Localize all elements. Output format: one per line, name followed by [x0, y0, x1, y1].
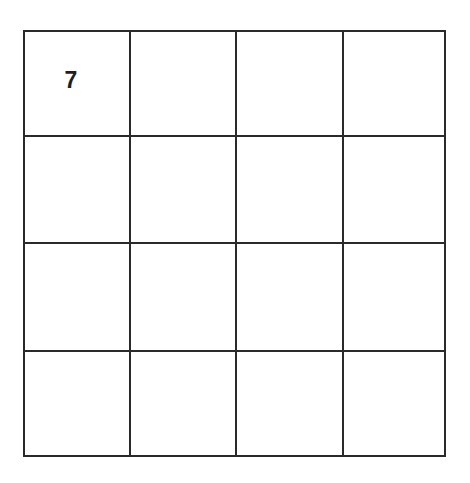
cell-value: 7: [65, 67, 78, 94]
grid-cell-r0-c3[interactable]: [344, 32, 444, 137]
grid-cell-r3-c1[interactable]: [131, 352, 237, 455]
grid-cell-r0-c0[interactable]: 7: [25, 32, 131, 137]
grid-cell-r2-c2[interactable]: [237, 244, 344, 352]
grid-cell-r0-c1[interactable]: [131, 32, 237, 137]
puzzle-grid: 7: [23, 30, 446, 457]
grid-cell-r2-c1[interactable]: [131, 244, 237, 352]
grid-cell-r0-c2[interactable]: [237, 32, 344, 137]
grid-cell-r3-c3[interactable]: [344, 352, 444, 455]
grid-cell-r1-c0[interactable]: [25, 137, 131, 244]
grid-cell-r1-c2[interactable]: [237, 137, 344, 244]
grid-cell-r1-c1[interactable]: [131, 137, 237, 244]
grid-cell-r3-c0[interactable]: [25, 352, 131, 455]
grid-cell-r2-c3[interactable]: [344, 244, 444, 352]
grid-cell-r1-c3[interactable]: [344, 137, 444, 244]
grid-cell-r3-c2[interactable]: [237, 352, 344, 455]
grid-cell-r2-c0[interactable]: [25, 244, 131, 352]
